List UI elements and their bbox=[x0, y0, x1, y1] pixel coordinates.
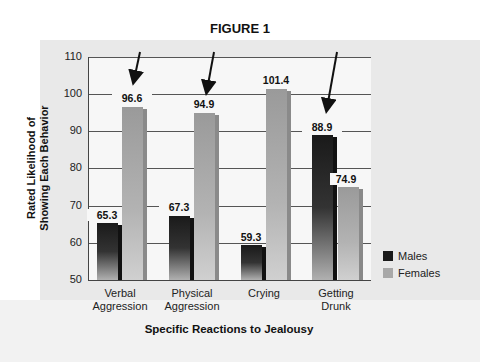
x-category-verbal-aggression: Verbal Aggression bbox=[80, 287, 160, 313]
x-category-line: Physical bbox=[152, 287, 232, 300]
legend-item-males: Males bbox=[383, 247, 440, 264]
bar-females-getting-drunk bbox=[338, 187, 359, 280]
bar-females-crying bbox=[266, 89, 287, 280]
y-tick: 100 bbox=[42, 87, 82, 99]
bar-males-physical-aggression bbox=[169, 216, 190, 280]
x-category-line: Aggression bbox=[152, 300, 232, 313]
value-label: 65.3 bbox=[87, 209, 127, 221]
bar-females-verbal-aggression bbox=[122, 107, 143, 280]
legend-swatch-females bbox=[383, 268, 393, 278]
bar-females-physical-aggression bbox=[194, 113, 215, 280]
bar-males-verbal-aggression bbox=[97, 223, 118, 280]
x-category-line: Verbal bbox=[80, 287, 160, 300]
bar-males-getting-drunk bbox=[312, 135, 333, 280]
x-category-getting-drunk: Getting Drunk bbox=[296, 287, 376, 313]
value-label: 67.3 bbox=[159, 201, 199, 213]
y-tick: 90 bbox=[42, 124, 82, 136]
x-category-line: Aggression bbox=[80, 300, 160, 313]
y-axis-label-line-1: Rated Likelihood of bbox=[25, 68, 38, 268]
plot-area: 65.3 96.6 67.3 94.9 59.3 101.4 88.9 74.9 bbox=[88, 57, 371, 281]
value-label: 101.4 bbox=[256, 74, 296, 86]
x-category-physical-aggression: Physical Aggression bbox=[152, 287, 232, 313]
legend-label: Females bbox=[398, 267, 440, 279]
gridline bbox=[89, 57, 371, 58]
legend-swatch-males bbox=[383, 251, 393, 261]
legend-item-females: Females bbox=[383, 264, 440, 281]
value-label: 96.6 bbox=[112, 92, 152, 104]
y-tick: 80 bbox=[42, 161, 82, 173]
y-tick: 60 bbox=[42, 236, 82, 248]
x-category-line: Getting bbox=[296, 287, 376, 300]
x-category-line: Crying bbox=[224, 287, 304, 300]
legend-label: Males bbox=[398, 250, 427, 262]
value-label: 74.9 bbox=[330, 173, 362, 185]
figure-title: FIGURE 1 bbox=[0, 21, 480, 36]
legend: Males Females bbox=[383, 247, 440, 281]
y-tick: 70 bbox=[42, 199, 82, 211]
x-category-line: Drunk bbox=[296, 300, 376, 313]
x-axis-label: Specific Reactions to Jealousy bbox=[88, 323, 370, 335]
value-label: 94.9 bbox=[184, 98, 224, 110]
y-tick: 110 bbox=[42, 50, 82, 62]
value-label: 59.3 bbox=[231, 231, 271, 243]
value-label: 88.9 bbox=[302, 121, 342, 133]
y-tick: 50 bbox=[42, 273, 82, 285]
x-category-crying: Crying bbox=[224, 287, 304, 300]
bar-males-crying bbox=[241, 245, 262, 280]
